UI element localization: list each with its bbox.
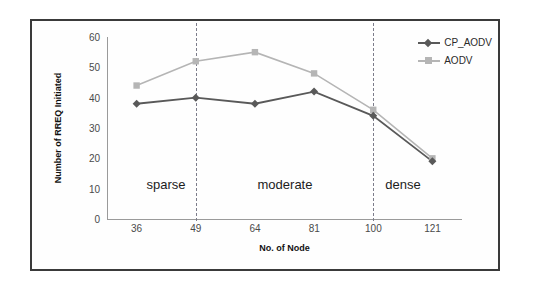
series-line-cp-aodv	[137, 92, 433, 162]
y-tick-40: 40	[89, 92, 100, 103]
legend-marker-square-icon	[418, 56, 440, 66]
y-tick-10: 10	[89, 183, 100, 194]
chart-figure: Number of RREQ Initiated 0 10 20 30 40 5…	[30, 19, 500, 271]
x-tick-100: 100	[365, 223, 382, 234]
series-canvas	[107, 37, 462, 219]
legend-label-aodv: AODV	[444, 55, 472, 66]
y-tick-20: 20	[89, 153, 100, 164]
x-tick-64: 64	[249, 223, 260, 234]
x-tick-36: 36	[131, 223, 142, 234]
y-tick-30: 30	[89, 123, 100, 134]
legend-item-cp-aodv[interactable]: CP_AODV	[418, 37, 492, 48]
y-tick-60: 60	[89, 32, 100, 43]
x-axis-line	[107, 219, 462, 220]
legend-label-cp-aodv: CP_AODV	[444, 37, 492, 48]
y-axis-label: Number of RREQ Initiated	[53, 73, 63, 184]
y-axis-label-container: Number of RREQ Initiated	[50, 37, 64, 219]
x-tick-121: 121	[424, 223, 441, 234]
x-tick-49: 49	[190, 223, 201, 234]
x-tick-81: 81	[309, 223, 320, 234]
x-axis-label: No. of Node	[107, 243, 462, 253]
series-line-aodv	[137, 52, 433, 158]
y-tick-50: 50	[89, 62, 100, 73]
series-markers-aodv	[133, 49, 435, 162]
chart-legend: CP_AODV AODV	[418, 37, 492, 73]
y-tick-0: 0	[94, 214, 100, 225]
legend-marker-diamond-icon	[418, 38, 440, 48]
plot-area: 0 10 20 30 40 50 60 36 49 64 81 100 121 …	[107, 37, 462, 219]
legend-item-aodv[interactable]: AODV	[418, 55, 492, 66]
